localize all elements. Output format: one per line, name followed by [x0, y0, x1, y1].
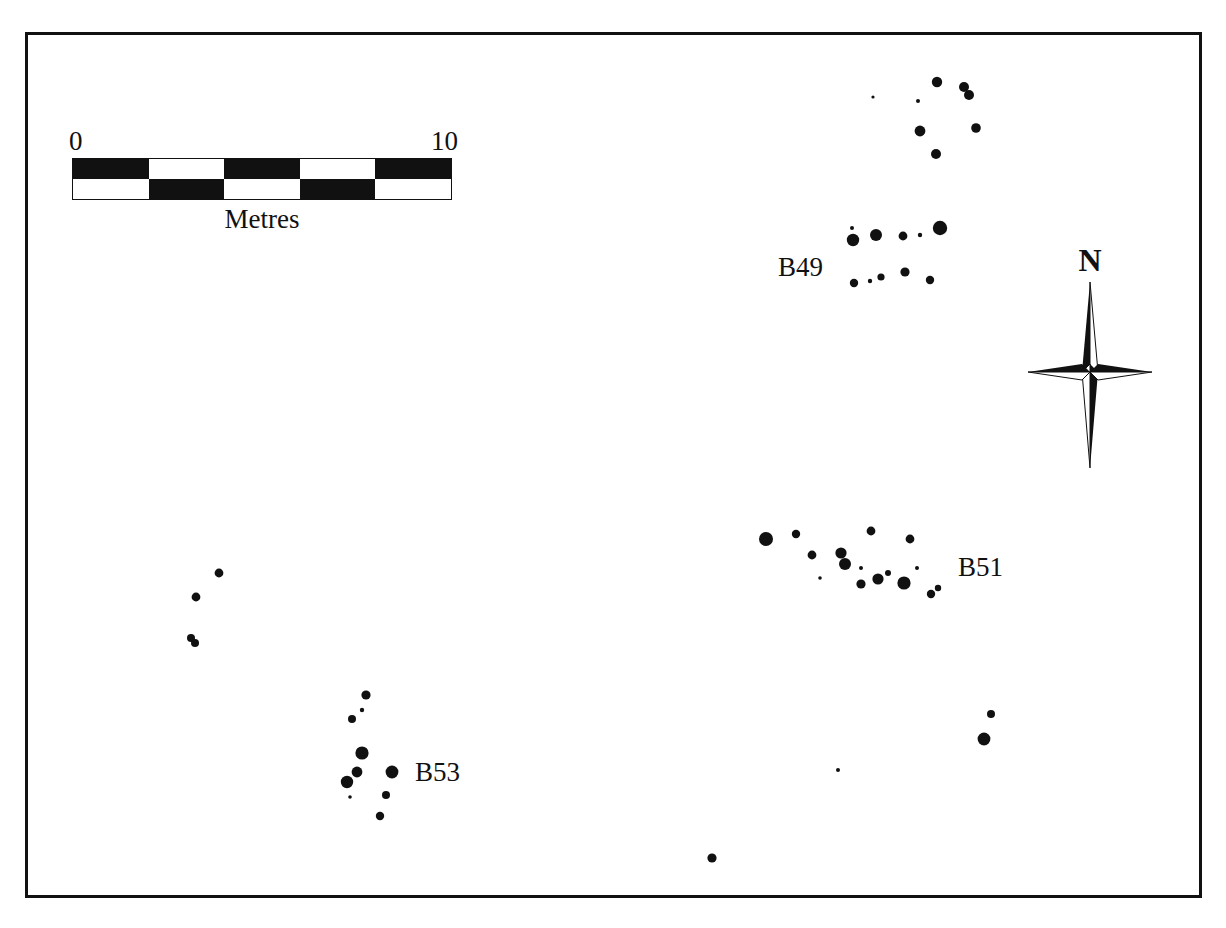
- scale-cell-0: [73, 179, 149, 199]
- cluster-label-b49: B49: [778, 252, 823, 282]
- scale-cell-1: [149, 159, 225, 179]
- scale-caption: Metres: [72, 204, 452, 235]
- scale-end-label: 10: [431, 124, 458, 158]
- scale-bar-row-bottom: [73, 179, 451, 199]
- scale-end-labels: 0 10: [72, 124, 452, 158]
- compass-star-icon: [1020, 280, 1160, 470]
- scale-start-label: 0: [69, 124, 83, 158]
- scale-cell-0: [73, 159, 149, 179]
- cluster-label-b53: B53: [415, 757, 460, 787]
- scale-bar-checkerboard: [72, 158, 452, 200]
- scale-cell-2: [224, 179, 300, 199]
- scale-cell-4: [375, 159, 451, 179]
- site-plan-figure: 0 10 Metres N B49 B51 B53: [0, 0, 1226, 928]
- scale-cell-1: [149, 179, 225, 199]
- scale-bar: 0 10 Metres: [72, 124, 452, 235]
- cluster-label-b51: B51: [958, 552, 1003, 582]
- scale-bar-row-top: [73, 159, 451, 179]
- scale-cell-2: [224, 159, 300, 179]
- scale-cell-3: [300, 159, 376, 179]
- scale-cell-4: [375, 179, 451, 199]
- north-letter-label: N: [1020, 242, 1160, 278]
- scale-cell-3: [300, 179, 376, 199]
- north-arrow: N: [1020, 242, 1160, 472]
